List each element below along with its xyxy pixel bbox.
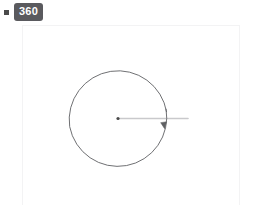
- angle-diagram[interactable]: [0, 0, 256, 205]
- square-bullet-icon: [4, 10, 9, 15]
- angle-value-badge[interactable]: 360: [14, 3, 43, 21]
- center-vertex-dot: [116, 117, 119, 120]
- badge-row: 360: [0, 0, 43, 24]
